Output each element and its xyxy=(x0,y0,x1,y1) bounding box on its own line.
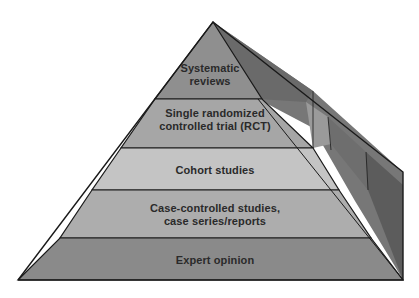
level-4-label: Case-controlled studies, case series/rep… xyxy=(120,202,310,228)
level-2-label: Single randomized controlled trial (RCT) xyxy=(140,107,290,133)
level-5-label: Expert opinion xyxy=(140,254,290,267)
level-5-line1: Expert opinion xyxy=(140,254,290,267)
level-2-line2: controlled trial (RCT) xyxy=(140,120,290,133)
level-4-line2: case series/reports xyxy=(120,215,310,228)
level-4-line1: Case-controlled studies, xyxy=(120,202,310,215)
level-2-line1: Single randomized xyxy=(140,107,290,120)
level-1-line2: reviews xyxy=(160,75,260,88)
level-3-label: Cohort studies xyxy=(140,164,290,177)
level-1-label: Systematic reviews xyxy=(160,62,260,88)
level-3-line1: Cohort studies xyxy=(140,164,290,177)
level-1-line1: Systematic xyxy=(160,62,260,75)
